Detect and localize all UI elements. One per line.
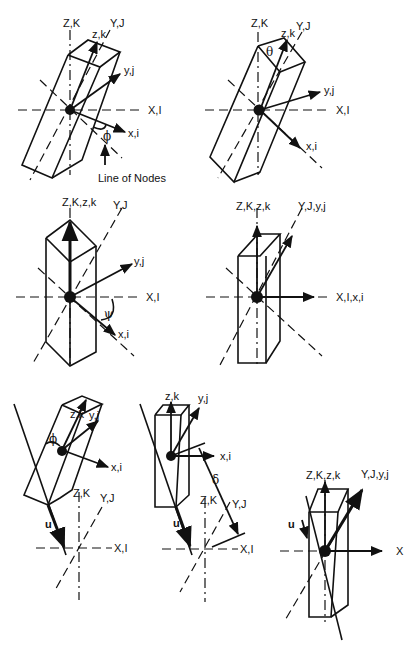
label-Z: Z,K,z,k	[62, 196, 97, 208]
label-Y: Y,J	[100, 492, 114, 504]
label-X: X,I	[146, 291, 159, 303]
label-x: x,i	[306, 140, 317, 152]
label-Z: Z,K,z,k	[306, 469, 341, 481]
label-delta: δ	[212, 473, 219, 487]
label-Z: Z,K	[63, 17, 81, 29]
panel-5: z,k y,j x,i ϕ Z,K Y,J X,I u	[14, 396, 127, 600]
label-Z: Z,K	[251, 17, 269, 29]
label-y: y,j	[89, 409, 99, 421]
label-u: u	[288, 518, 295, 530]
label-x: x,i	[220, 450, 231, 462]
euler-rotation-diagram: Z,K Y,J z,k y,j X,I x,i ϕ Line of Nodes …	[0, 0, 412, 650]
label-X: X,I	[114, 542, 127, 554]
label-Z: Z,K	[200, 494, 218, 506]
label-z: z,k	[165, 390, 180, 402]
label-Y: Y,J	[232, 498, 246, 510]
label-x: x,i	[128, 127, 139, 139]
panel-2: Z,K Y,J z,k y,j X,I x,i θ	[205, 17, 349, 182]
label-z: z,k	[70, 408, 85, 420]
label-phi: ϕ	[49, 432, 57, 446]
label-X: X	[396, 545, 404, 557]
panel-3: Z,K,z,k Y,J y,j X,I x,i ψ	[16, 196, 159, 368]
label-z: z,k	[92, 28, 107, 40]
label-Y: Y,J	[110, 17, 124, 29]
label-z: z,k	[281, 27, 296, 39]
label-line-of-nodes: Line of Nodes	[98, 172, 166, 184]
label-u: u	[173, 517, 180, 529]
label-Z: Z,K	[73, 487, 91, 499]
label-x: x,i	[111, 461, 122, 473]
panel-4: Z,K,z,k Y,J,y,j X,I,x,i	[206, 200, 364, 365]
label-y: y,j	[124, 64, 134, 76]
panel-7: Z,K,z,k Y,J,y,j X u	[280, 468, 404, 640]
label-y: y,j	[198, 392, 208, 404]
panel-6: z,k y,j x,i δ Z,K Y,J X,I u	[140, 390, 253, 602]
label-Y: Y,J,y,j	[361, 468, 389, 480]
label-Z: Z,K,z,k	[236, 200, 271, 212]
label-y: y,j	[324, 84, 334, 96]
label-Y: Y,J	[113, 199, 127, 211]
label-psi: ψ	[104, 307, 113, 321]
label-X: X,I	[240, 543, 253, 555]
label-theta: θ	[266, 45, 273, 59]
panel-1: Z,K Y,J z,k y,j X,I x,i ϕ Line of Nodes	[18, 17, 166, 184]
label-x: x,i	[118, 328, 129, 340]
label-Y: Y,J	[296, 20, 310, 32]
label-y: y,j	[134, 255, 144, 267]
label-u: u	[45, 518, 52, 530]
label-phi: ϕ	[103, 129, 111, 143]
label-Y: Y,J,y,j	[298, 200, 326, 212]
label-X: X,I	[148, 104, 161, 116]
label-X: X,I,x,i	[336, 291, 364, 303]
label-X: X,I	[336, 104, 349, 116]
